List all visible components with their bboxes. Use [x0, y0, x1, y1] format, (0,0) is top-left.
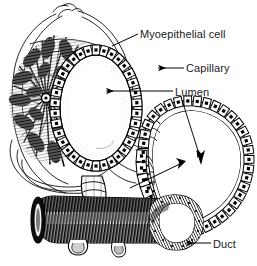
- cell-nucleus: [94, 164, 97, 167]
- cell-nucleus: [140, 154, 143, 157]
- cell-nucleus: [143, 132, 147, 136]
- cell-nucleus: [176, 100, 180, 104]
- cell-nucleus: [134, 122, 138, 126]
- label-duct: Duct: [213, 238, 236, 250]
- cell-nucleus: [55, 91, 59, 95]
- cell-nucleus: [142, 160, 145, 163]
- cell-nucleus: [247, 158, 250, 161]
- cell-nucleus: [195, 100, 199, 104]
- duct-opening: [150, 195, 203, 250]
- cell-nucleus: [143, 169, 147, 173]
- cell-nucleus: [246, 148, 250, 152]
- cell-nucleus: [94, 48, 97, 51]
- cell-nucleus: [135, 112, 138, 115]
- cell-nucleus: [135, 101, 138, 104]
- cell-nucleus: [55, 122, 59, 126]
- cell-nucleus: [53, 112, 56, 115]
- cell-nucleus: [53, 101, 56, 104]
- cell-nucleus: [140, 166, 143, 169]
- cell-nucleus: [186, 99, 189, 102]
- label-myoepithelial-cell: Myoepithelial cell: [140, 28, 226, 40]
- label-lumen: Lumen: [175, 86, 209, 98]
- cell-nucleus: [142, 142, 146, 146]
- figure-mammary-alveolus: Myoepithelial cell Capillary Lumen Duct: [0, 0, 257, 266]
- cell-nucleus: [247, 167, 251, 171]
- cell-nucleus: [145, 190, 148, 193]
- label-capillary: Capillary: [186, 62, 230, 74]
- cell-nucleus: [142, 151, 145, 154]
